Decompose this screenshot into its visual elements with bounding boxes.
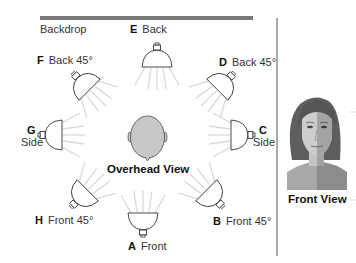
backdrop-bar [40, 16, 253, 20]
light-letter: H [35, 214, 43, 226]
light-name: Front 45° [226, 215, 271, 227]
light-label-f: FBack 45° [37, 54, 93, 66]
light-letter-c: C [259, 124, 267, 136]
light-name: Back 45° [232, 56, 276, 68]
light-name-g: Side [21, 136, 43, 148]
light-letter: D [219, 56, 227, 68]
light-letter-g: G [27, 124, 36, 136]
light-name-c: Side [253, 136, 275, 148]
spotlight-icon-a [121, 190, 165, 237]
light-label-a: AFront [128, 240, 167, 252]
light-name: Front 45° [48, 214, 93, 226]
backdrop-label: Backdrop [40, 23, 86, 35]
light-name: Back [142, 23, 166, 35]
spotlight-icon-f [57, 57, 121, 121]
spotlight-icon-e [135, 43, 179, 90]
light-letter: F [37, 54, 44, 66]
light-label-d: DBack 45° [219, 56, 276, 68]
light-letter: B [213, 215, 221, 227]
light-label-b: BFront 45° [213, 215, 271, 227]
light-name: Back 45° [49, 54, 93, 66]
overhead-head-icon [128, 116, 167, 161]
light-label-e: EBack [130, 23, 167, 35]
light-letter: E [130, 23, 137, 35]
front-view-label: Front View [288, 193, 347, 205]
light-letter: A [128, 240, 136, 252]
spotlight-icon-g [38, 113, 85, 157]
light-name: Front [141, 240, 167, 252]
overhead-view-label: Overhead View [107, 163, 189, 175]
light-label-h: HFront 45° [35, 214, 93, 226]
front-face-portrait [287, 97, 347, 190]
spotlight-icon-c [208, 113, 255, 157]
